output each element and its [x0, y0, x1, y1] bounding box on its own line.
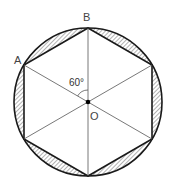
center-point — [86, 100, 91, 105]
label-b: B — [83, 11, 90, 23]
angle-arc — [78, 90, 88, 96]
label-angle: 60° — [69, 77, 84, 88]
label-o: O — [90, 110, 99, 122]
label-a: A — [14, 54, 22, 66]
hexagon-in-circle-diagram: B A O 60° — [0, 0, 175, 193]
